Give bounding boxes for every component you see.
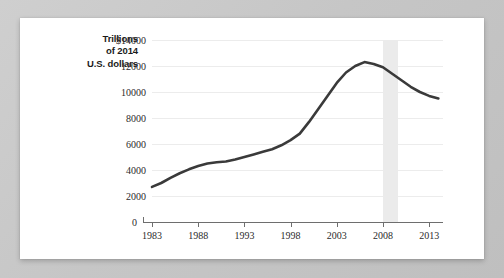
y-axis-title-line-2: of 2014 [56, 45, 138, 57]
y-axis-tick-label: 8000 [126, 113, 146, 124]
y-axis-tick-label: 10000 [121, 87, 146, 98]
x-axis-tick-label: 1988 [188, 230, 208, 241]
x-axis-tick [383, 222, 384, 227]
y-axis-tick-label: 0 [132, 217, 137, 228]
x-axis-line [143, 222, 443, 223]
y-axis-tick-label: 12000 [121, 61, 146, 72]
y-axis-tick-label: 4000 [126, 165, 146, 176]
series-line-path [152, 62, 438, 187]
chart-card: Trillions of 2014 U.S. dollars 020004000… [20, 18, 484, 259]
x-axis-tick-label: 1998 [281, 230, 301, 241]
chart-card-inner: Trillions of 2014 U.S. dollars 020004000… [20, 18, 484, 259]
y-axis-tick-label: 2000 [126, 191, 146, 202]
x-axis-tick [291, 222, 292, 227]
x-axis-tick-label: 1983 [142, 230, 162, 241]
x-axis-tick [152, 222, 153, 227]
x-axis-tick [337, 222, 338, 227]
series-line [152, 40, 443, 222]
x-axis-tick-label: 2013 [419, 230, 439, 241]
x-axis-tick [244, 222, 245, 227]
screenshot-root: Trillions of 2014 U.S. dollars 020004000… [0, 0, 504, 278]
x-axis-tick-label: 2008 [373, 230, 393, 241]
y-axis-tick-label: 6000 [126, 139, 146, 150]
x-axis-tick [429, 222, 430, 227]
x-axis-tick-label: 2003 [327, 230, 347, 241]
y-axis-tick-label: $14000 [116, 35, 146, 46]
plot-area: 020004000600080001000012000$14000 198319… [152, 40, 443, 222]
x-axis-tick-label: 1993 [234, 230, 254, 241]
x-axis-tick [198, 222, 199, 227]
x-axis-origin-cap [143, 217, 144, 222]
